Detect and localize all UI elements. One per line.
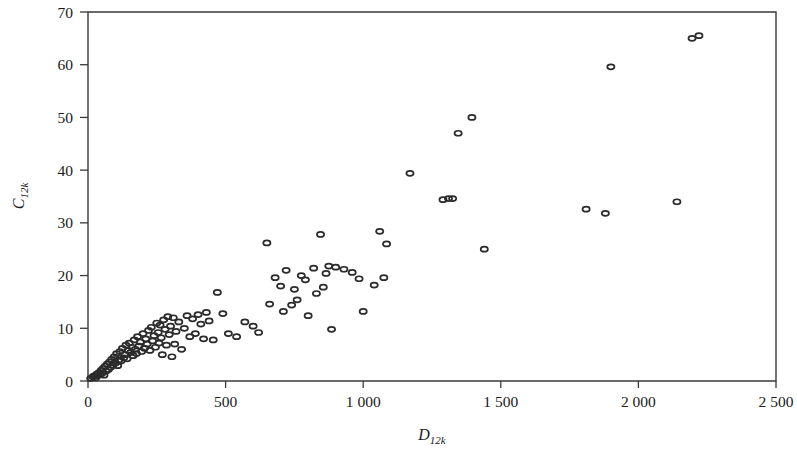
data-point — [203, 310, 210, 315]
y-tick-label: 0 — [65, 373, 73, 390]
y-tick-label: 60 — [58, 56, 74, 73]
data-point — [355, 276, 362, 281]
data-point-group — [87, 33, 702, 381]
data-point — [178, 347, 185, 352]
y-tick-label: 40 — [58, 162, 74, 179]
x-tick-label: 2 500 — [759, 393, 794, 410]
data-point — [294, 297, 301, 302]
data-point — [277, 284, 284, 289]
data-point — [305, 313, 312, 318]
y-tick-label: 20 — [58, 267, 74, 284]
data-point — [313, 291, 320, 296]
data-point — [288, 303, 295, 308]
data-point — [583, 207, 590, 212]
data-point — [166, 332, 173, 337]
data-point — [291, 287, 298, 292]
data-point — [210, 337, 217, 342]
data-point — [380, 275, 387, 280]
data-point — [360, 309, 367, 314]
y-tick-label: 30 — [58, 214, 74, 231]
y-axis-ticks — [80, 12, 88, 381]
data-point — [192, 331, 199, 336]
data-point — [310, 266, 317, 271]
data-point — [181, 326, 188, 331]
plot-canvas: 05001 0001 5002 0002 500 010203040506070… — [0, 0, 797, 457]
y-tick-label: 10 — [58, 320, 74, 337]
data-point — [205, 318, 212, 323]
data-point — [468, 115, 475, 120]
x-tick-label: 2 000 — [621, 393, 656, 410]
data-point — [455, 131, 462, 136]
data-point — [171, 342, 178, 347]
y-axis-tick-labels: 010203040506070 — [58, 4, 74, 390]
data-point — [163, 343, 170, 348]
data-point — [167, 324, 174, 329]
data-point — [320, 285, 327, 290]
data-point — [263, 240, 270, 245]
data-point — [200, 336, 207, 341]
data-point — [695, 33, 702, 38]
x-tick-label: 500 — [214, 393, 238, 410]
data-point — [197, 322, 204, 327]
data-point — [172, 329, 179, 334]
data-point — [688, 36, 695, 41]
data-point — [250, 324, 257, 329]
data-point — [255, 330, 262, 335]
data-point — [266, 302, 273, 307]
scatter-plot-figure: 05001 0001 5002 0002 500 010203040506070… — [0, 0, 797, 457]
data-point — [349, 270, 356, 275]
data-point — [673, 199, 680, 204]
data-point — [225, 331, 232, 336]
data-point — [322, 271, 329, 276]
data-point — [383, 241, 390, 246]
x-tick-label: 1 000 — [346, 393, 381, 410]
data-point — [159, 352, 166, 357]
data-point — [317, 232, 324, 237]
data-point — [406, 171, 413, 176]
data-point — [168, 354, 175, 359]
data-point — [219, 311, 226, 316]
x-tick-label: 0 — [84, 393, 92, 410]
data-point — [158, 335, 165, 340]
data-point — [481, 247, 488, 252]
y-tick-label: 50 — [58, 109, 74, 126]
data-point — [241, 319, 248, 324]
data-point — [194, 312, 201, 317]
x-axis-tick-labels: 05001 0001 5002 0002 500 — [84, 393, 794, 410]
data-point — [376, 229, 383, 234]
data-point — [283, 268, 290, 273]
data-point — [272, 275, 279, 280]
data-point — [602, 211, 609, 216]
x-axis-ticks — [88, 381, 776, 388]
data-point — [371, 283, 378, 288]
data-point — [280, 309, 287, 314]
data-point — [607, 64, 614, 69]
data-point — [302, 277, 309, 282]
data-point — [175, 319, 182, 324]
y-axis-title: C12k — [10, 182, 30, 210]
axis-frame — [88, 12, 776, 381]
data-point — [155, 341, 162, 346]
x-axis-title: D12k — [417, 426, 447, 446]
data-point — [214, 290, 221, 295]
y-tick-label: 70 — [58, 4, 74, 21]
data-point — [332, 265, 339, 270]
data-point — [328, 327, 335, 332]
x-tick-label: 1 500 — [483, 393, 518, 410]
data-point — [340, 267, 347, 272]
data-point — [233, 334, 240, 339]
axis-group: 05001 0001 5002 0002 500 010203040506070 — [58, 4, 794, 411]
